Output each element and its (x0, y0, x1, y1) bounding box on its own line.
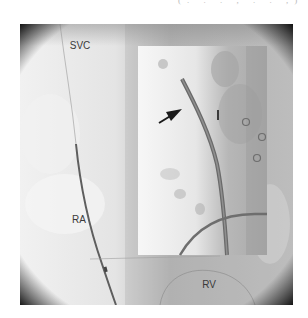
label-rv: RV (202, 279, 216, 290)
caption-fragment: (. . . , . . ,) (178, 0, 308, 3)
xray-canvas (20, 24, 293, 305)
inset-image (138, 46, 267, 255)
label-svc: SVC (70, 40, 91, 51)
label-ra: RA (72, 214, 86, 225)
fluoroscopy-figure: SVC RA RV (20, 24, 293, 305)
